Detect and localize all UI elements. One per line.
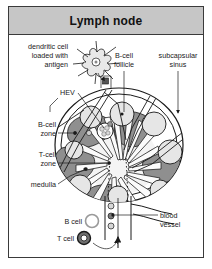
label-b-cell-follicle-line1: B-cell [115, 51, 133, 60]
dendritic-cell-icon [73, 41, 120, 84]
legend-b-cell: B cell [64, 215, 98, 228]
legend-t-cell: T cell [57, 232, 117, 249]
b-cell-glyph [86, 215, 99, 228]
label-medulla: medulla [31, 180, 56, 189]
label-subcapsular-sinus-line2: sinus [170, 60, 187, 69]
antigen-particle [103, 78, 109, 84]
vessel-cell [108, 223, 114, 229]
label-blood-vessel: blood vessel [111, 211, 180, 229]
label-subcapsular-sinus: subcapsular sinus [159, 51, 198, 113]
lymph-node-illustration: dendritic cell loaded with antigen B-cel… [0, 0, 212, 269]
label-b-cell-zone-line1: B-cell [38, 120, 56, 129]
label-b-cell-zone-line2: zone [40, 129, 56, 138]
label-dendritic-cell-line2: loaded with [32, 51, 68, 60]
lymph-node-body [54, 88, 183, 220]
recirculation-arrow-icon [93, 240, 117, 249]
lymph-node-figure: Lymph node [0, 0, 212, 269]
label-dendritic-cell-line3: antigen [44, 60, 68, 69]
vessel-cell [108, 203, 114, 209]
label-blood-vessel-line1: blood [160, 211, 178, 220]
label-subcapsular-sinus-line1: subcapsular [159, 51, 198, 60]
label-dendritic-cell: dendritic cell loaded with antigen [28, 42, 68, 69]
afferent-lymphatic-vessel [101, 76, 111, 88]
legend-b-cell-label: B cell [64, 217, 82, 226]
label-t-cell-zone-line1: T-cell [39, 150, 57, 159]
legend-t-cell-label: T cell [57, 234, 74, 243]
label-hev: HEV [60, 88, 75, 97]
label-dendritic-cell-line1: dendritic cell [28, 42, 68, 51]
label-t-cell-zone-line2: zone [40, 159, 56, 168]
label-b-cell-follicle-line2: follicle [114, 60, 134, 69]
label-blood-vessel-line2: vessel [160, 220, 181, 229]
